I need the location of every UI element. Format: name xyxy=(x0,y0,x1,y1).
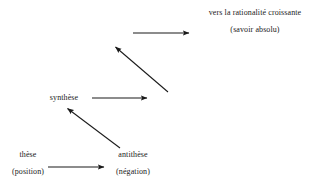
synthese-label: synthèse xyxy=(50,92,78,103)
these-sublabel: (position) xyxy=(12,166,44,177)
arrow-synthese-to-higher-stage xyxy=(116,47,169,92)
rationalite-title: vers la rationalité croissante xyxy=(209,7,302,18)
antithese-label: antithèse xyxy=(118,149,147,160)
dialectic-diagram: vers la rationalité croissante (savoir a… xyxy=(0,0,323,190)
these-label: thèse xyxy=(20,149,37,160)
rationalite-subtitle: (savoir absolu) xyxy=(230,24,279,35)
antithese-sublabel: (négation) xyxy=(116,166,150,177)
arrow-antithese-to-synthese xyxy=(68,109,121,149)
